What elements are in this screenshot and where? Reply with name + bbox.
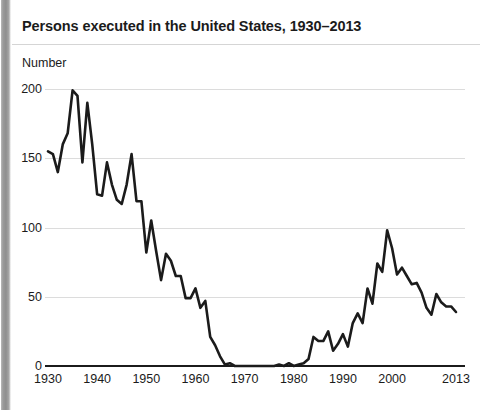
chart-page: Persons executed in the United States, 1…: [0, 0, 480, 410]
plot-area: 050100150200 193019401950196019701980199…: [0, 0, 480, 410]
series-line-persons-executed: [48, 90, 456, 366]
series-line-chart: [0, 0, 480, 410]
